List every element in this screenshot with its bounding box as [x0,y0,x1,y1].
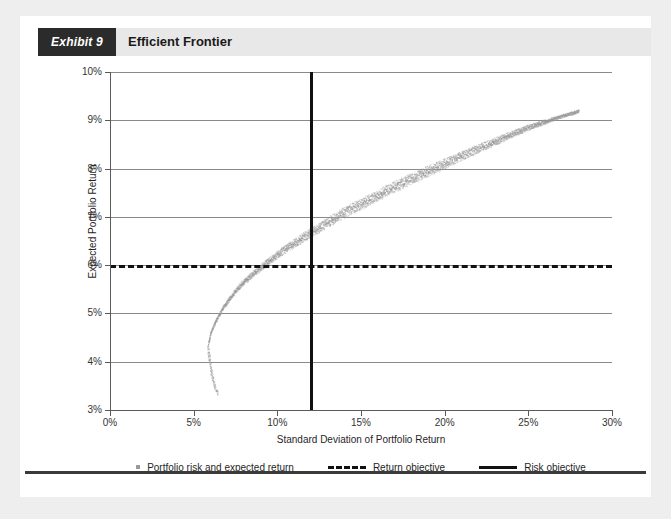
x-tick-mark [612,411,613,416]
card-bottom-rule [25,471,646,474]
x-tick-mark [194,411,195,416]
x-tick-label: 5% [171,417,217,428]
return-objective-line [110,265,612,268]
y-tick-label: 9% [62,114,102,125]
x-tick-mark [528,411,529,416]
exhibit-card: Exhibit 9 Efficient Frontier Expected Po… [20,16,651,497]
page-root: Exhibit 9 Efficient Frontier Expected Po… [0,0,671,519]
y-tick-label: 4% [62,356,102,367]
x-tick-mark [110,411,111,416]
square-marker-icon [136,465,140,469]
exhibit-number-badge: Exhibit 9 [38,28,116,56]
x-tick-label: 30% [589,417,635,428]
exhibit-title: Efficient Frontier [128,28,232,56]
x-tick-label: 25% [505,417,551,428]
x-tick-mark [445,411,446,416]
x-tick-label: 0% [87,417,133,428]
y-tick-label: 6% [62,259,102,270]
x-tick-mark [277,411,278,416]
y-tick-label: 3% [62,404,102,415]
y-tick-label: 5% [62,307,102,318]
risk-objective-line [310,72,313,411]
efficient-frontier-chart: Expected Portfolio Return 3%4%5%6%7%8%9%… [20,56,651,471]
y-tick-label: 8% [62,163,102,174]
x-tick-label: 20% [422,417,468,428]
x-axis-tick-labels: 0%5%10%15%20%25%30% [110,417,612,433]
y-axis-title-wrapper: Expected Portfolio Return [34,76,54,406]
y-tick-label: 7% [62,211,102,222]
y-axis-line [110,72,111,411]
y-tick-label: 10% [62,66,102,77]
y-axis-tick-labels: 3%4%5%6%7%8%9%10% [62,72,102,410]
x-axis-title: Standard Deviation of Portfolio Return [110,434,612,445]
dashed-line-icon [328,466,366,469]
solid-line-icon [479,466,517,469]
plot-area: 3%4%5%6%7%8%9%10% 0%5%10%15%20%25%30% [110,72,612,410]
x-tick-mark [361,411,362,416]
x-tick-label: 10% [254,417,300,428]
portfolio-scatter-cloud [110,72,612,410]
x-tick-label: 15% [338,417,384,428]
x-axis-line [110,410,613,411]
